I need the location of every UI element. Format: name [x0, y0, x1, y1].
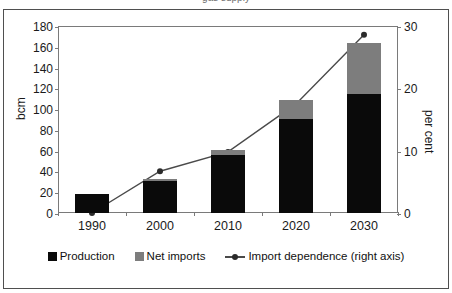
x-axis-tick-mark [194, 212, 195, 216]
right-axis-tick-label: 0 [404, 208, 411, 220]
right-axis-title: per cent [422, 110, 436, 153]
bar-segment-production-2010 [211, 155, 245, 213]
left-axis-tick-mark [55, 172, 59, 173]
x-axis-tick-mark [58, 212, 59, 216]
right-axis-tick-mark [397, 152, 401, 153]
legend-swatch-icon [48, 252, 57, 261]
x-axis-tick-mark [398, 212, 399, 216]
right-axis-tick-mark [397, 89, 401, 90]
bar-2010 [211, 150, 245, 213]
x-axis-tick-mark [126, 212, 127, 216]
left-axis-tick-mark [55, 69, 59, 70]
legend-label: Import dependence (right axis) [248, 250, 404, 263]
left-axis-tick-label: 180 [33, 21, 53, 33]
left-axis-tick-mark [55, 152, 59, 153]
left-axis-tick-label: 40 [40, 166, 53, 178]
left-axis-tick-label: 120 [33, 83, 53, 95]
bar-segment-production-2030 [347, 94, 381, 213]
right-axis-tick-label: 30 [404, 21, 417, 33]
left-axis-tick-label: 140 [33, 63, 53, 75]
x-axis-label-2000: 2000 [146, 219, 174, 233]
legend-line-marker-icon [225, 252, 245, 261]
left-axis-title: bcm [14, 97, 28, 120]
legend-swatch-icon [135, 252, 144, 261]
x-axis-label-2030: 2030 [350, 219, 378, 233]
x-axis-label-1990: 1990 [78, 219, 106, 233]
bar-segment-production-1990 [75, 194, 109, 213]
legend-item-2: Import dependence (right axis) [225, 250, 404, 263]
bar-2000 [143, 179, 177, 213]
x-axis-label-2010: 2010 [214, 219, 242, 233]
left-axis-tick-mark [55, 110, 59, 111]
bar-2030 [347, 43, 381, 213]
right-axis-tick-mark [397, 27, 401, 28]
legend-label: Production [60, 250, 115, 263]
left-axis-tick-label: 100 [33, 104, 53, 116]
bar-segment-net-imports-2030 [347, 43, 381, 94]
x-axis-tick-mark [262, 212, 263, 216]
left-axis-tick-label: 160 [33, 42, 53, 54]
chart-legend: ProductionNet importsImport dependence (… [0, 250, 452, 263]
legend-label: Net imports [147, 250, 206, 263]
left-axis-tick-label: 0 [46, 208, 53, 220]
bar-1990 [75, 194, 109, 213]
left-axis-tick-label: 20 [40, 187, 53, 199]
bar-segment-production-2020 [279, 119, 313, 213]
bar-segment-production-2000 [143, 181, 177, 213]
left-axis-tick-mark [55, 193, 59, 194]
legend-item-0: Production [48, 250, 115, 263]
left-axis-tick-label: 80 [40, 125, 53, 137]
left-axis-tick-mark [55, 89, 59, 90]
right-axis-tick-label: 10 [404, 146, 417, 158]
x-axis-tick-mark [330, 212, 331, 216]
bar-segment-net-imports-2020 [279, 100, 313, 120]
chart-figure: gas supply bcm per cent 0204060801001201… [0, 0, 452, 293]
left-axis-tick-label: 60 [40, 146, 53, 158]
clipped-title-text: gas supply [0, 0, 452, 7]
x-axis-label-2020: 2020 [282, 219, 310, 233]
left-axis-tick-mark [55, 131, 59, 132]
left-axis-tick-mark [55, 48, 59, 49]
legend-item-1: Net imports [135, 250, 206, 263]
bar-2020 [279, 100, 313, 213]
left-axis-tick-mark [55, 27, 59, 28]
right-axis-tick-label: 20 [404, 83, 417, 95]
